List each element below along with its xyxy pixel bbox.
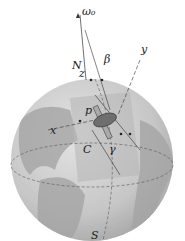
- beta-label: β: [104, 54, 110, 65]
- gamma-label: γ: [109, 144, 116, 155]
- p-label: p: [85, 105, 92, 116]
- gyrocompass-diagram: ω₀ N β y z p x C γ S: [0, 0, 185, 241]
- south-label: S: [91, 230, 99, 241]
- omega-label: ω₀: [82, 6, 95, 17]
- y-axis-label: y: [141, 44, 147, 55]
- z-axis-label: z: [79, 68, 85, 79]
- globe-figure: [0, 0, 185, 241]
- x-axis-label: x: [50, 125, 56, 136]
- c-label: C: [83, 144, 91, 155]
